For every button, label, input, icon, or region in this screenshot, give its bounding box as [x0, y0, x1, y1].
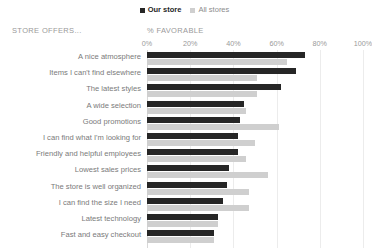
legend-item-all-stores: All stores [190, 6, 229, 14]
bar-our-store [147, 68, 296, 74]
bar-all-stores [147, 59, 287, 65]
legend-item-our-store: Our store [140, 6, 182, 14]
bar-group: A nice atmosphere [0, 52, 369, 68]
category-label: The latest styles [86, 84, 141, 94]
bar-group: I can find the size I need [0, 198, 369, 214]
category-label: Fast and easy checkout [61, 230, 141, 240]
category-label: Lowest sales prices [75, 165, 141, 175]
x-tick-label-40: 40% [226, 39, 240, 48]
value-axis-header: % FAVORABLE [147, 26, 204, 35]
legend-label-our-store: Our store [148, 6, 182, 14]
category-label: I can find what I'm looking for [43, 133, 141, 143]
bar-all-stores [147, 221, 218, 227]
bar-our-store [147, 198, 223, 204]
bar-our-store [147, 230, 214, 236]
category-label: A wide selection [87, 101, 141, 111]
bar-group: The store is well organized [0, 182, 369, 198]
bar-our-store [147, 133, 238, 139]
legend-swatch-all-stores [190, 8, 195, 13]
bar-all-stores [147, 189, 249, 195]
bar-our-store [147, 84, 281, 90]
x-tick-label-60: 60% [269, 39, 283, 48]
bar-our-store [147, 182, 227, 188]
bar-group: Latest technology [0, 214, 369, 230]
bar-all-stores [147, 172, 268, 178]
bar-group: Items I can't find elsewhere [0, 68, 369, 84]
x-tick-label-80: 80% [313, 39, 327, 48]
bar-our-store [147, 101, 244, 107]
legend-swatch-our-store [140, 8, 145, 13]
category-label: Items I can't find elsewhere [49, 68, 141, 78]
bar-our-store [147, 149, 238, 155]
chart-legend: Our store All stores [0, 4, 369, 16]
category-axis-header: STORE OFFERS... [12, 26, 82, 35]
x-tick-label-20: 20% [183, 39, 197, 48]
category-label: Good promotions [83, 117, 141, 127]
bar-all-stores [147, 237, 214, 243]
x-tick-label-0: 0% [142, 39, 152, 48]
bar-all-stores [147, 140, 255, 146]
x-axis-tick-labels: 0%20%40%60%80%100% [0, 39, 369, 50]
bar-our-store [147, 214, 218, 220]
category-label: The store is well organized [51, 182, 141, 192]
bar-group: Friendly and helpful employees [0, 149, 369, 165]
bar-all-stores [147, 156, 246, 162]
bar-all-stores [147, 205, 249, 211]
bar-group: Lowest sales prices [0, 165, 369, 181]
category-label: Latest technology [81, 214, 141, 224]
bar-all-stores [147, 75, 257, 81]
chart-headers: STORE OFFERS... % FAVORABLE [0, 26, 369, 40]
category-label: A nice atmosphere [78, 52, 141, 62]
bar-all-stores [147, 91, 257, 97]
category-label: I can find the size I need [59, 198, 141, 208]
bar-our-store [147, 165, 229, 171]
legend-label-all-stores: All stores [198, 6, 229, 14]
bar-all-stores [147, 108, 246, 114]
chart-plot-area: A nice atmosphereItems I can't find else… [0, 50, 369, 248]
x-tick-label-100: 100% [354, 39, 372, 48]
bar-group: I can find what I'm looking for [0, 133, 369, 149]
bar-our-store [147, 52, 305, 58]
bar-group: Fast and easy checkout [0, 230, 369, 246]
bar-group: Good promotions [0, 117, 369, 133]
bar-group: A wide selection [0, 101, 369, 117]
category-label: Friendly and helpful employees [36, 149, 141, 159]
bar-our-store [147, 117, 240, 123]
bar-group: The latest styles [0, 84, 369, 100]
bar-all-stores [147, 124, 279, 130]
